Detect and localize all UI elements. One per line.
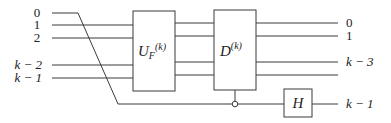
output-label-1: 1 [346, 28, 353, 43]
uf-gate: UF(k) [133, 11, 175, 91]
output-label-k-minus-1: k − 1 [346, 96, 374, 111]
input-label-k-minus-1: k − 1 [14, 70, 42, 85]
input-label-2: 2 [34, 30, 41, 45]
quantum-circuit-diagram: 0 1 2 k − 2 k − 1 UF(k) D(k) H [0, 0, 391, 123]
h-gate-label: H [292, 95, 305, 111]
d-gate: D(k) [214, 10, 256, 90]
output-label-k-minus-3: k − 3 [346, 54, 374, 69]
open-control-icon [232, 101, 238, 107]
input-labels: 0 1 2 k − 2 k − 1 [14, 5, 42, 85]
output-labels: 0 1 k − 3 k − 1 [346, 15, 374, 111]
h-gate: H [284, 89, 312, 117]
